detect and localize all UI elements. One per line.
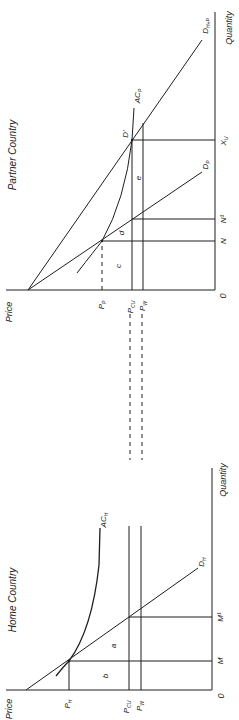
home-ph-label: PH xyxy=(63,699,73,708)
partner-country-panel: Partner Country Price Quantity 0 PP xyxy=(4,11,234,323)
home-average-cost-label: ACH xyxy=(99,512,109,528)
partner-combined-demand-curve xyxy=(28,40,202,290)
partner-origin-label: 0 xyxy=(218,293,228,298)
home-demand-label: DH xyxy=(197,557,207,567)
partner-average-cost-label: ACP xyxy=(133,88,143,104)
partner-title: Partner Country xyxy=(7,119,18,191)
home-price-axis-label: Price xyxy=(4,699,14,720)
partner-demand-curve xyxy=(28,172,202,290)
home-pcu-label: PCU xyxy=(122,700,132,713)
partner-pcu-label: PCU xyxy=(126,300,136,313)
home-country-panel: Home Country Price Quantity 0 PH PCU PW … xyxy=(4,463,228,720)
partner-area-d: d xyxy=(117,230,126,235)
home-point-ph xyxy=(68,660,71,663)
home-area-a: a xyxy=(109,643,118,648)
partner-point-dprime xyxy=(131,139,133,141)
partner-dprime-label: D' xyxy=(121,130,130,138)
partner-demand-label: DP xyxy=(201,160,211,170)
partner-n1-label: N¹ xyxy=(219,214,228,223)
home-m-label: M xyxy=(216,657,225,664)
home-origin-label: 0 xyxy=(216,693,226,698)
partner-xu-label: XU xyxy=(219,136,229,146)
partner-pw-label: PW xyxy=(138,300,148,311)
partner-price-axis-label: Price xyxy=(4,302,14,323)
home-quantity-axis-label: Quantity xyxy=(218,463,228,497)
customs-union-diagram: Partner Country Price Quantity 0 PP xyxy=(0,0,239,720)
partner-area-c: c xyxy=(114,264,123,268)
home-pw-label: PW xyxy=(135,700,145,711)
home-m1-label: M¹ xyxy=(216,612,225,622)
partner-quantity-axis-label: Quantity xyxy=(224,11,234,45)
partner-combined-demand-label: DH+P xyxy=(201,18,211,34)
home-demand-curve xyxy=(26,568,198,690)
partner-area-e: e xyxy=(134,175,143,180)
home-area-b: b xyxy=(101,673,110,678)
partner-point-pp xyxy=(101,240,103,242)
home-average-cost-curve xyxy=(56,528,100,676)
partner-pp-label: PP xyxy=(97,300,107,309)
partner-n-label: N xyxy=(219,238,228,244)
home-title: Home Country xyxy=(7,567,18,632)
